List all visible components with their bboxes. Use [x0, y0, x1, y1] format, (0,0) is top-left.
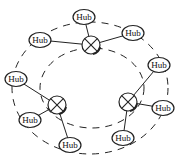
hub-node: Hub — [122, 26, 144, 41]
hub-node: Hub — [148, 58, 170, 73]
hub-label: Hub — [155, 103, 171, 113]
hub-node: Hub — [19, 113, 41, 128]
switches — [48, 36, 137, 114]
switch-icon — [82, 36, 100, 54]
hub-node: Hub — [59, 138, 81, 153]
hub-label: Hub — [22, 115, 38, 125]
hub-label: Hub — [32, 35, 48, 45]
hub-label: Hub — [151, 60, 167, 70]
hub-node: Hub — [152, 101, 174, 116]
inner-ring — [40, 48, 144, 128]
hub-label: Hub — [8, 74, 24, 84]
hub-label: Hub — [76, 12, 92, 22]
switch-icon — [48, 96, 66, 114]
hubs: HubHubHubHubHubHubHubHubHub — [5, 10, 174, 153]
hub-label: Hub — [62, 140, 78, 150]
hub-node: Hub — [5, 72, 27, 87]
hub-label: Hub — [125, 28, 141, 38]
switch-icon — [119, 93, 137, 111]
network-diagram: HubHubHubHubHubHubHubHubHub — [0, 0, 184, 165]
hub-node: Hub — [73, 10, 95, 25]
hub-node: Hub — [112, 131, 134, 146]
hub-label: Hub — [115, 133, 131, 143]
hub-node: Hub — [29, 33, 51, 48]
